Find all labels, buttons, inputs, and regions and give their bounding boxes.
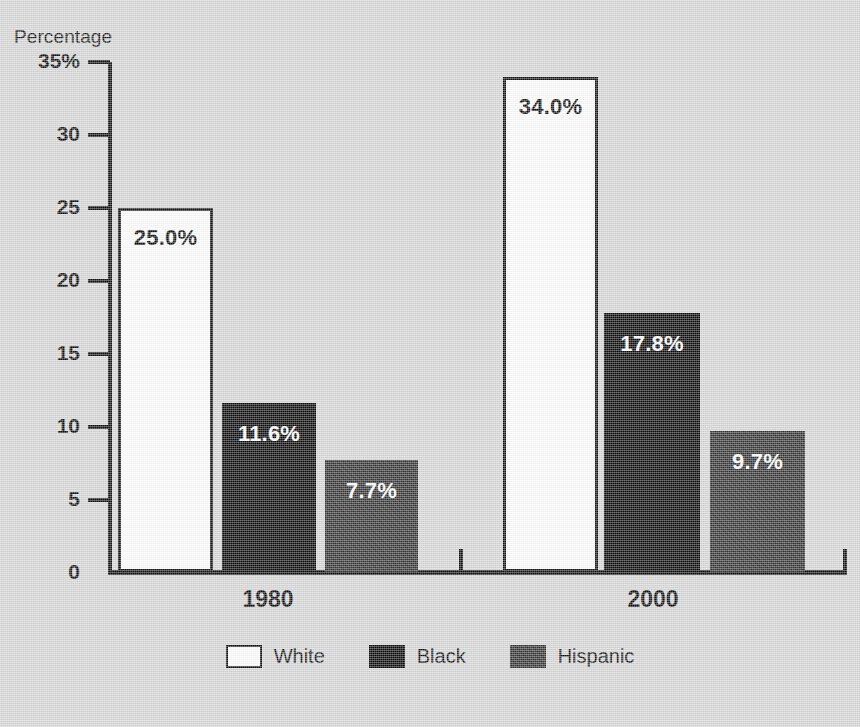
chart-legend: White Black Hispanic	[0, 645, 860, 668]
x-axis-group-label-2000: 2000	[553, 586, 753, 613]
legend-item-hispanic[interactable]: Hispanic	[510, 645, 635, 668]
legend-swatch-hispanic-icon	[510, 645, 546, 668]
bar-label-2000-white: 34.0%	[506, 94, 595, 120]
y-tick-label-15: 15	[4, 342, 80, 363]
y-tick-mark-25	[88, 206, 110, 210]
legend-item-white[interactable]: White	[226, 645, 325, 668]
legend-label-hispanic: Hispanic	[558, 645, 635, 668]
legend-swatch-black-icon	[369, 645, 405, 668]
bar-label-1980-black: 11.6%	[222, 421, 316, 447]
bar-2000-hispanic[interactable]: 9.7%	[710, 431, 805, 572]
legend-swatch-white-icon	[226, 645, 262, 668]
y-tick-label-30: 30	[4, 123, 80, 144]
bar-2000-white[interactable]: 34.0%	[503, 77, 598, 572]
y-tick-label-10: 10	[4, 415, 80, 436]
bar-label-2000-black: 17.8%	[604, 331, 700, 357]
y-tick-mark-20	[88, 279, 110, 283]
y-tick-label-20: 20	[4, 269, 80, 290]
legend-item-black[interactable]: Black	[369, 645, 466, 668]
y-tick-mark-15	[88, 352, 110, 356]
y-tick-label-0: 0	[4, 561, 80, 582]
bar-1980-white[interactable]: 25.0%	[118, 208, 213, 572]
y-tick-mark-10	[88, 425, 110, 429]
y-tick-mark-30	[88, 133, 110, 137]
legend-label-white: White	[274, 645, 325, 668]
y-tick-label-35: 35%	[4, 50, 80, 71]
bar-label-2000-hispanic: 9.7%	[710, 449, 805, 475]
bar-label-1980-white: 25.0%	[121, 225, 210, 251]
y-tick-mark-5	[88, 498, 110, 502]
y-tick-label-5: 5	[4, 488, 80, 509]
y-tick-label-25: 25	[4, 196, 80, 217]
x-axis-group-separator-tick	[459, 549, 463, 571]
y-axis-title: Percentage	[14, 26, 112, 48]
x-axis-end-tick	[843, 549, 847, 571]
x-axis-group-label-1980: 1980	[168, 586, 368, 613]
bar-1980-black[interactable]: 11.6%	[222, 403, 316, 572]
bar-label-1980-hispanic: 7.7%	[325, 478, 418, 504]
bar-2000-black[interactable]: 17.8%	[604, 313, 700, 572]
legend-label-black: Black	[417, 645, 466, 668]
bar-1980-hispanic[interactable]: 7.7%	[325, 460, 418, 572]
y-tick-mark-35	[88, 60, 110, 64]
bar-chart: Percentage 35% 30 25 20 15 10 5 0 25.0% …	[0, 0, 860, 727]
